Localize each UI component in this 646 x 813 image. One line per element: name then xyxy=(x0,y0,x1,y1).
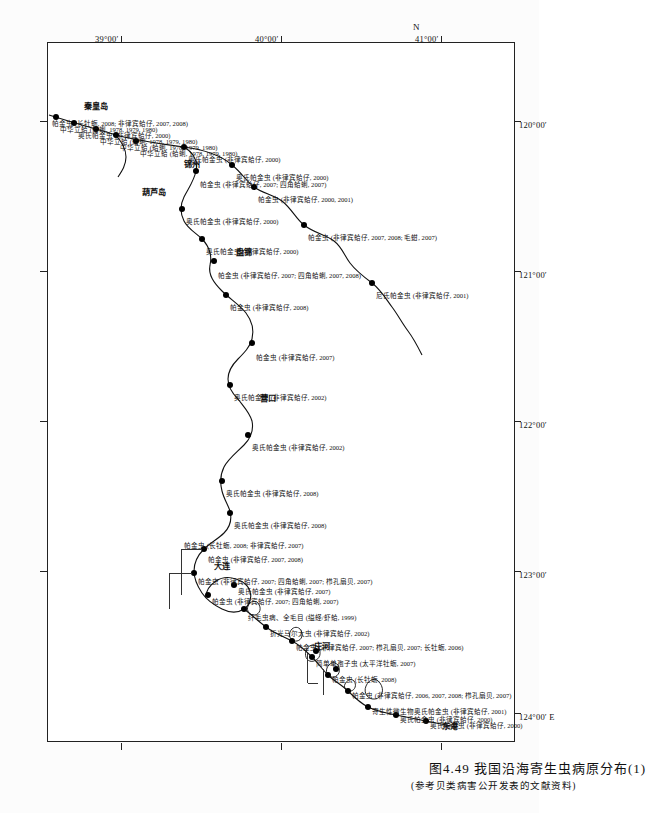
leader-line xyxy=(323,669,324,695)
record-label: 帕金虫 (非律宾蛤仔, 2007; 栉孔扇贝, 2007; 长牡蛎, 2006) xyxy=(296,645,463,652)
record-label: 奥氏帕金虫 (非律宾蛤仔, 2008) xyxy=(226,491,319,498)
record-label: 奥氏帕金虫 (非律宾蛤仔, 2000) xyxy=(430,723,523,730)
figure-caption-main: 图4.49 我国沿海寄生虫病原分布(1) xyxy=(429,758,646,777)
leader-line xyxy=(170,573,192,574)
y-tick-40-r xyxy=(281,743,282,750)
x-tick-122-b xyxy=(40,421,47,422)
city-label-huludao: 葫芦岛 xyxy=(142,189,166,197)
record-label: 帕金虫 (非律宾蛤仔, 2007; 四角蛤蜊, 2007; 栉孔扇贝, 2007… xyxy=(198,579,372,586)
record-label: 尼氏帕金虫 (非律宾蛤仔, 2001) xyxy=(376,293,469,300)
record-label: 帕金虫 (非律宾蛤仔, 2007; 四角蛤蜊, 2007) xyxy=(212,599,339,606)
x-tick-123-b xyxy=(40,571,47,572)
record-label: 奥氏帕金虫 (非律宾蛤仔, 2007) xyxy=(238,589,331,596)
record-label: 帕金虫 (非律宾蛤仔, 2008) xyxy=(230,305,309,312)
record-label: 奥氏帕金虫 (非律宾蛤仔, 2000) xyxy=(78,133,171,140)
y-axis-label-40: 40°00′ xyxy=(255,34,278,44)
record-label: 中华立蛤 (蛤蜊, 1978, 1979, 1980) xyxy=(120,145,218,152)
record-label: 帕金虫 (非律宾蛤仔, 2007; 四角蛤蜊, 2007, 2008) xyxy=(218,273,361,280)
record-label: 帕金虫 (非律宾蛤仔, 2006, 2007, 2008; 栉孔扇贝, 2007… xyxy=(352,693,511,700)
x-axis-label-123: 123°00′ xyxy=(519,570,547,580)
y-tick-40 xyxy=(281,36,282,43)
record-label: 帕金虫 (非律宾蛤仔, 2007) xyxy=(256,355,335,362)
leader-line xyxy=(182,549,202,550)
x-axis-label-121: 121°00′ xyxy=(519,270,547,280)
record-label: 帕金虫 (非律宾蛤仔, 2007, 2008; 毛蚶, 2007) xyxy=(308,235,437,242)
y-axis-label-41: 41°00′ xyxy=(415,34,438,44)
leader-line xyxy=(169,573,170,609)
record-label: 寄生性微生物奥氏帕金虫 (非律宾蛤仔, 2001) xyxy=(372,709,507,716)
x-tick-120-b xyxy=(40,121,47,122)
y-tick-41 xyxy=(441,36,442,43)
y-tick-39-r xyxy=(121,743,122,750)
figure-caption-sub: (参考贝类病害公开发表的文献资料) xyxy=(411,778,576,792)
x-axis-label-122: 122°00′ xyxy=(519,420,547,430)
record-label: 帕金虫 (长牡蛎, 2008; 非律宾蛤仔, 2007, 2008) xyxy=(52,121,188,128)
leader-line xyxy=(308,683,318,684)
x-axis-label-120: 120°00′ xyxy=(519,120,547,130)
record-label: 帕金虫 (非律宾蛤仔, 2000, 2001) xyxy=(258,197,353,204)
record-label: 中华立蛤 (蛤蜊, 1978, 1979, 1980) xyxy=(60,127,158,134)
y-tick-39 xyxy=(121,36,122,43)
city-label-qinhuangdao: 秦皇岛 xyxy=(84,103,108,111)
record-label: 奥氏帕金虫 (非律宾蛤仔, 2002) xyxy=(252,445,345,452)
record-label: 奥氏帕金虫 (非律宾蛤仔, 2000) xyxy=(206,249,299,256)
y-tick-41-r xyxy=(441,743,442,750)
leader-line xyxy=(307,653,308,683)
record-label: 奥氏帕金虫 (非律宾蛤仔, 2008) xyxy=(234,523,327,530)
record-label: 纤毛虫病、全毛目 (缢蛏/虾蛤, 1999) xyxy=(248,615,356,622)
record-label: 中华立蛤 (蛤蜊, 1978, 1979, 1980) xyxy=(140,151,238,158)
leader-line xyxy=(181,549,182,595)
y-axis-label-39: 39°00′ xyxy=(95,34,118,44)
record-label: 奥氏帕金虫 (非律宾蛤仔, 2000) xyxy=(236,175,329,182)
coastline-drawing xyxy=(46,43,514,743)
record-label: 奥氏帕金虫 (非律宾蛤仔, 2000) xyxy=(188,157,281,164)
north-indicator: N xyxy=(413,22,420,32)
record-label: 帕金虫 (非律宾蛤仔, 2007, 2008) xyxy=(208,557,303,564)
city-label-dalian: 大连 xyxy=(214,563,230,571)
record-label: 奥氏帕金虫 (非律宾蛤仔, 2002) xyxy=(234,395,327,402)
record-label: 奥氏帕金虫 (非律宾蛤仔, 2000) xyxy=(186,219,279,226)
x-axis-label-124: 124°00′ E xyxy=(519,712,555,722)
record-label: 帕金虫 (长牡蛎, 2008) xyxy=(332,677,397,684)
x-tick-121-b xyxy=(40,271,47,272)
record-label: 折光马尔太虫 (非律宾蛤仔, 2002) xyxy=(270,631,370,638)
record-label: 帕金虫 (非律宾蛤仔, 2007; 四角蛤蜊, 2007) xyxy=(200,182,327,189)
record-label: 简单单孢子虫 (太平洋牡蛎, 2007) xyxy=(316,661,416,668)
map-frame: 盘锦 锦州 葫芦岛 秦皇岛 营口 大连 庄河 东港 xyxy=(47,42,515,742)
record-label: 中华立蛤 (蛤蜊, 1978, 1979, 1980) xyxy=(100,139,198,146)
